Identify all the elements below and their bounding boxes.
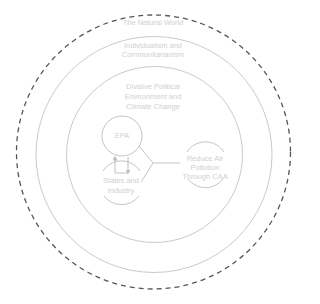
- divisive-label-line2: Environment and: [125, 92, 182, 101]
- goal-label-line2: Pollution: [191, 163, 220, 172]
- goal-label-line3: Through CAA: [182, 172, 227, 181]
- epa-label: EPA: [115, 131, 129, 140]
- individualism-ring: [36, 37, 272, 273]
- states-label-line1: States and: [103, 176, 139, 185]
- natural-world-label: The Natural World: [123, 18, 184, 27]
- individualism-label-line2: Communitarianism: [122, 50, 185, 59]
- bracket-connector: [139, 146, 180, 182]
- divisive-label-line3: Climate Change: [126, 102, 180, 111]
- states-label-line2: Industry: [108, 186, 135, 195]
- goal-label-line1: Reduce Air: [187, 154, 224, 163]
- divisive-label-line1: Divisive Political: [126, 82, 180, 91]
- individualism-label-line1: Individualism and: [124, 41, 182, 50]
